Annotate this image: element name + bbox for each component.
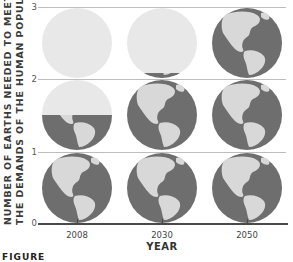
- globe-2008-3-empty: [42, 8, 112, 78]
- x-tick-mark-2008: [77, 219, 78, 225]
- globe-2008-2-partial: [42, 80, 112, 150]
- globe-2050-3: [212, 8, 282, 78]
- x-tick-2030: 2030: [142, 230, 182, 240]
- x-tick-mark-2050: [247, 219, 248, 225]
- figure-caption: FIGURE: [2, 252, 45, 262]
- globe-2030-1: [127, 153, 197, 223]
- globe-2050-1: [212, 153, 282, 223]
- x-tick-2008: 2008: [57, 230, 97, 240]
- globe-2030-3-partial: [127, 8, 197, 78]
- globe-2030-2: [127, 80, 197, 150]
- globe-2050-2: [212, 80, 282, 150]
- x-axis-baseline: [38, 223, 288, 225]
- x-tick-mark-2030: [162, 219, 163, 225]
- globe-2008-1: [42, 153, 112, 223]
- x-axis-label: YEAR: [142, 241, 182, 252]
- x-tick-2050: 2050: [227, 230, 267, 240]
